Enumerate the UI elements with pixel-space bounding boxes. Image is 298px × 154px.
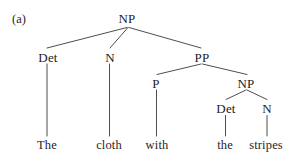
node-det-2: Det bbox=[216, 102, 235, 115]
edge-pp-p bbox=[157, 64, 201, 75]
node-n-1: N bbox=[105, 51, 115, 64]
node-pp: PP bbox=[195, 51, 210, 64]
edge-pp-np2 bbox=[203, 64, 248, 75]
edge-np-det1 bbox=[47, 28, 127, 49]
edge-np2-det2 bbox=[226, 90, 246, 100]
figure-label: (a) bbox=[12, 13, 26, 26]
node-p: P bbox=[152, 77, 159, 90]
edge-np-pp bbox=[129, 28, 201, 49]
terminal-stripes: stripes bbox=[249, 139, 283, 152]
edge-np-n1 bbox=[110, 28, 128, 49]
node-root-np: NP bbox=[118, 12, 135, 25]
node-det-1: Det bbox=[38, 51, 57, 64]
node-n-2: N bbox=[262, 102, 272, 115]
terminal-cloth: cloth bbox=[96, 139, 122, 152]
terminal-with: with bbox=[146, 139, 169, 152]
terminal-the-2: the bbox=[217, 139, 233, 152]
terminal-the-1: The bbox=[37, 139, 57, 152]
syntax-tree-figure: (a) NP Det N PP P NP Det N The cloth wit… bbox=[0, 0, 298, 154]
edge-np2-n2 bbox=[247, 90, 267, 100]
node-np-2: NP bbox=[237, 77, 254, 90]
